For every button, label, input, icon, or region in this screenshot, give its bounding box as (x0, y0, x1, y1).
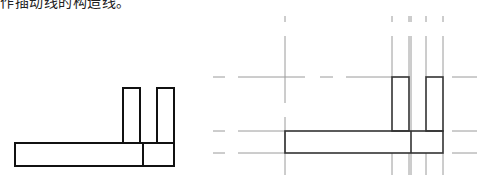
left-post-2 (392, 77, 409, 131)
construction-lines (213, 16, 477, 175)
right-post-2 (426, 77, 443, 131)
base-rect-2 (285, 131, 443, 153)
left-post (123, 88, 140, 143)
base-rect (15, 143, 174, 166)
construction-lines-shape (285, 77, 443, 153)
right-post (157, 88, 174, 143)
drawing-canvas (0, 0, 485, 188)
original-shape (15, 88, 174, 166)
